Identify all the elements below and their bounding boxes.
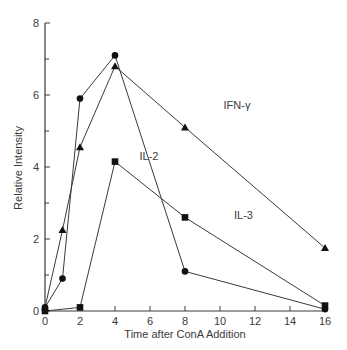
x-tick-label: 0 (42, 315, 48, 327)
triangle-marker (76, 143, 84, 150)
y-tick-label: 2 (33, 233, 39, 245)
y-tick-label: 8 (33, 17, 39, 29)
y-tick-label: 0 (33, 305, 39, 317)
x-tick-label: 12 (249, 315, 261, 327)
x-tick-label: 8 (182, 315, 188, 327)
circle-marker (77, 95, 84, 102)
square-marker (182, 214, 189, 221)
x-tick-label: 6 (147, 315, 153, 327)
x-tick-label: 10 (214, 315, 226, 327)
line-chart: 02468 0246810121416 Relative Intensity T… (0, 0, 347, 350)
x-tick-label: 16 (319, 315, 331, 327)
circle-marker (59, 275, 66, 282)
series-markers (41, 52, 329, 314)
square-marker (42, 308, 49, 315)
square-marker (322, 302, 329, 309)
y-tick-label: 4 (33, 161, 39, 173)
circle-marker (182, 268, 189, 275)
x-tick-label: 14 (284, 315, 296, 327)
triangle-marker (59, 226, 67, 233)
x-tick-label: 2 (77, 315, 83, 327)
circle-marker (112, 52, 119, 59)
y-axis-label: Relative Intensity (12, 126, 24, 210)
series-label: IFN-γ (224, 99, 251, 111)
series-labels: IL-2IFN-γIL-3 (140, 99, 253, 221)
series-label: IL-2 (140, 150, 159, 162)
square-marker (77, 304, 84, 311)
series-label: IL-3 (234, 209, 253, 221)
x-axis: 0246810121416 (42, 306, 331, 327)
y-axis: 02468 (33, 17, 50, 317)
square-marker (112, 158, 119, 165)
x-tick-label: 4 (112, 315, 118, 327)
series-line (45, 162, 325, 311)
x-axis-label: Time after ConA Addition (124, 328, 245, 340)
y-tick-label: 6 (33, 89, 39, 101)
